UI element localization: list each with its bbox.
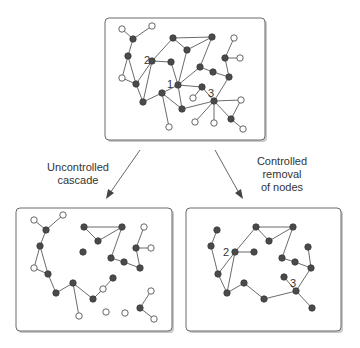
- node-label-3-controlled: 3: [290, 277, 296, 289]
- node-label-1: 1: [167, 78, 173, 90]
- node-label-3: 3: [208, 87, 214, 99]
- node-label-2-controlled: 2: [223, 246, 229, 258]
- caption-controlled-line1: Controlled: [257, 155, 307, 167]
- cascade-diagram: 2 1 3 Uncontrolled cascade Controlled re…: [0, 0, 360, 348]
- bottom-left-panel-uncontrolled: [16, 208, 174, 333]
- caption-uncontrolled-line1: Uncontrolled: [47, 161, 109, 173]
- node-label-2: 2: [144, 54, 150, 66]
- caption-controlled-line3: of nodes: [261, 181, 304, 193]
- caption-uncontrolled-line2: cascade: [58, 174, 99, 186]
- arrow-controlled: [215, 150, 243, 199]
- top-panel-original-network: 2 1 3: [105, 18, 267, 142]
- arrow-uncontrolled: [106, 150, 140, 199]
- caption-controlled-line2: removal: [262, 168, 301, 180]
- bottom-right-panel-controlled: 2 3: [186, 208, 343, 333]
